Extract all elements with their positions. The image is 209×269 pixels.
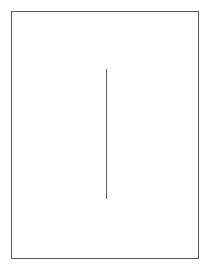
vertical-line <box>106 69 107 199</box>
figure-canvas <box>0 0 209 269</box>
figure-caption <box>0 0 1 1</box>
rectangle-border <box>11 11 199 259</box>
